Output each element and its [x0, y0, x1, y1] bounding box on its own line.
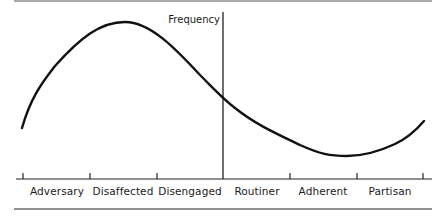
- y-axis-label: Frequency: [168, 14, 220, 25]
- category-label-partisan: Partisan: [368, 185, 411, 197]
- category-label-adversary: Adversary: [30, 185, 84, 197]
- category-label-adherent: Adherent: [299, 185, 348, 197]
- category-label-disaffected: Disaffected: [93, 185, 154, 197]
- category-label-disengaged: Disengaged: [158, 185, 221, 197]
- frequency-diagram: [0, 0, 448, 216]
- category-label-routiner: Routiner: [234, 185, 279, 197]
